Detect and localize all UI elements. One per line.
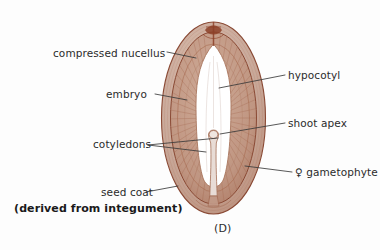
- seed-body: [162, 22, 266, 214]
- label-shoot-apex: shoot apex: [288, 117, 347, 129]
- label-compressed-nucellus: compressed nucellus: [53, 47, 165, 59]
- label-female-gametophyte: ♀ gametophyte: [295, 166, 378, 178]
- shoot-apex-knob: [209, 131, 218, 139]
- label-cotyledons: cotyledons: [93, 138, 151, 150]
- label-hypocotyl: hypocotyl: [288, 69, 340, 81]
- radicle-base: [208, 196, 219, 206]
- label-seed-coat: seed coat: [101, 186, 153, 198]
- figure-caption: (D): [214, 222, 231, 235]
- label-embryo: embryo: [106, 88, 147, 100]
- figure-panel: compressed nucellus embryo cotyledons se…: [0, 0, 380, 250]
- label-derived-from-integument: (derived from integument): [14, 202, 183, 215]
